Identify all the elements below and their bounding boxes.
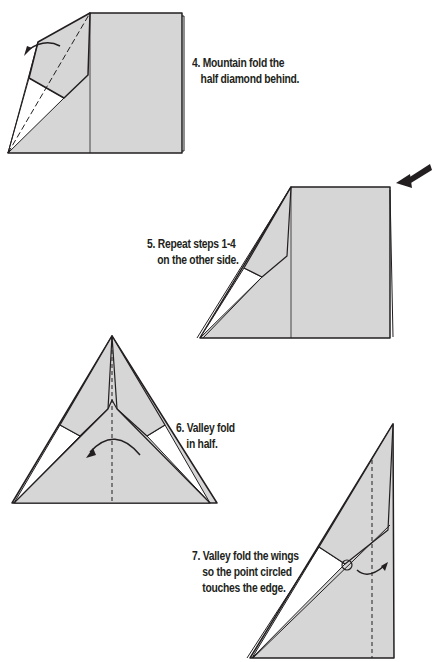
step-7-line-2: so the point circled [192, 564, 299, 580]
step-7-line-1: 7. Valley fold the wings [192, 548, 299, 564]
step-6-line-2: in half. [176, 436, 235, 452]
step-7-diagram [247, 424, 394, 658]
step-4-line-2: half diamond behind. [192, 71, 299, 87]
step-5-line-2: on the other side. [147, 252, 239, 268]
step-4-diagram [8, 13, 184, 153]
step-7-caption: 7. Valley fold the wings so the point ci… [192, 548, 299, 596]
step-5-line-1: 5. Repeat steps 1-4 [147, 236, 239, 252]
step-4-caption: 4. Mountain fold the half diamond behind… [192, 55, 299, 87]
step-4-line-1: 4. Mountain fold the [192, 55, 299, 71]
step-5-caption: 5. Repeat steps 1-4 on the other side. [147, 236, 239, 268]
step-6-caption: 6. Valley fold in half. [176, 420, 235, 452]
step-6-line-1: 6. Valley fold [176, 420, 235, 436]
step-7-line-3: touches the edge. [192, 580, 299, 596]
